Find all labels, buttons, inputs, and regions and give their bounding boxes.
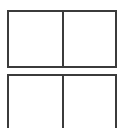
diagram-canvas (0, 0, 125, 128)
top-frame[interactable] (7, 10, 117, 68)
bottom-frame[interactable] (7, 74, 117, 128)
bottom-left-cell[interactable] (9, 76, 62, 128)
top-left-cell[interactable] (9, 12, 62, 66)
top-right-cell[interactable] (62, 12, 115, 66)
bottom-right-cell[interactable] (62, 76, 115, 128)
